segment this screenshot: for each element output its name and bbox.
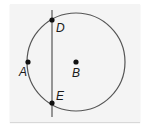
point-e (49, 100, 54, 105)
label-d: D (56, 21, 65, 35)
label-b: B (72, 66, 80, 80)
label-e: E (56, 89, 65, 103)
label-a: A (18, 65, 27, 79)
point-d (49, 17, 54, 22)
geometry-diagram: D A B E (0, 0, 144, 130)
point-b (73, 59, 78, 64)
point-a (25, 59, 30, 64)
